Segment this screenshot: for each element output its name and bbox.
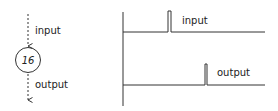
node-output-label: output <box>35 79 68 90</box>
node-diagram: 16 input output <box>16 14 69 100</box>
timing-diagram: input output <box>123 11 265 106</box>
diagram-canvas: 16 input output input output <box>0 0 278 111</box>
node-number: 16 <box>22 55 35 66</box>
node-input-label: input <box>35 25 61 36</box>
input-signal-label: input <box>182 15 208 26</box>
output-signal-label: output <box>217 67 250 78</box>
